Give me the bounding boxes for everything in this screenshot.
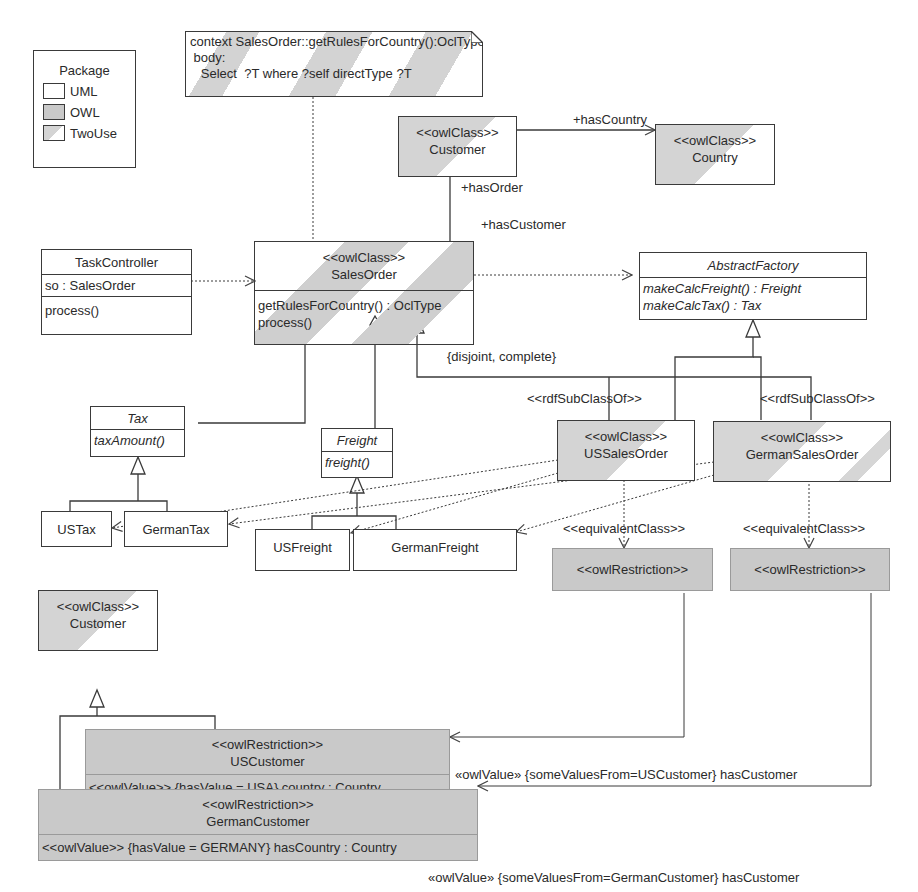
class-name: AbstractFactory <box>640 253 866 277</box>
class-german-freight[interactable]: GermanFreight <box>353 529 517 571</box>
class-sales-order[interactable]: <<owlClass>> SalesOrder getRulesForCount… <box>254 241 474 345</box>
restriction-us[interactable]: <<owlRestriction>> <box>552 548 713 591</box>
legend-label: TwoUse <box>70 126 117 141</box>
stereotype: <<owlClass>> <box>658 132 772 149</box>
class-us-tax[interactable]: USTax <box>41 511 112 547</box>
class-customer-bottom[interactable]: <<owlClass>> Customer <box>38 590 158 651</box>
label-equivalent-german: <<equivalentClass>> <box>743 521 865 536</box>
class-german-customer[interactable]: <<owlRestriction>> GermanCustomer <<owlV… <box>38 789 478 861</box>
attribute: <<owlValue>> {hasValue = GERMANY} hasCou… <box>39 834 477 858</box>
class-name: USFreight <box>256 530 349 559</box>
twouse-swatch-icon <box>43 125 65 141</box>
class-country[interactable]: <<owlClass>> Country <box>655 124 775 185</box>
class-us-freight[interactable]: USFreight <box>255 529 350 571</box>
stereotype: <<owlClass>> <box>716 429 888 446</box>
class-name: Country <box>658 149 772 166</box>
stereotype: <<owlRestriction>> <box>553 549 712 581</box>
label-has-customer: +hasCustomer <box>481 217 566 232</box>
class-german-tax[interactable]: GermanTax <box>124 511 228 547</box>
class-name: GermanCustomer <box>41 813 475 830</box>
restriction-german[interactable]: <<owlRestriction>> <box>730 548 890 591</box>
class-tax[interactable]: Tax taxAmount() <box>90 406 185 457</box>
operation: makeCalcTax() : Tax <box>643 297 863 314</box>
class-name: Freight <box>322 429 392 451</box>
operation: process() <box>42 296 191 321</box>
stereotype: <<owlRestriction>> <box>88 736 447 753</box>
legend-label: OWL <box>70 105 100 120</box>
stereotype: <<owlClass>> <box>41 598 155 615</box>
label-disjoint-complete: {disjoint, complete} <box>447 349 556 364</box>
label-rdf-subclass-us: <<rdfSubClassOf>> <box>527 391 642 406</box>
class-freight[interactable]: Freight freight() <box>321 428 393 478</box>
note-line: context SalesOrder::getRulesForCountry()… <box>190 34 478 50</box>
attribute: so : SalesOrder <box>42 274 191 296</box>
class-name: GermanTax <box>125 512 227 541</box>
label-owlvalue-us: «owlValue» {someValuesFrom=USCustomer} h… <box>455 767 797 782</box>
owl-swatch-icon <box>43 104 65 120</box>
class-name: Customer <box>401 141 514 158</box>
stereotype: <<owlClass>> <box>401 124 514 141</box>
label-has-country: +hasCountry <box>573 112 647 127</box>
class-us-sales-order[interactable]: <<owlClass>> USSalesOrder <box>557 420 695 481</box>
stereotype: <<owlClass>> <box>560 428 692 445</box>
class-name: Customer <box>41 615 155 632</box>
label-owlvalue-german: «owlValue» {someValuesFrom=GermanCustome… <box>428 870 799 885</box>
legend: Package UML OWL TwoUse <box>33 50 136 168</box>
legend-item-uml: UML <box>43 83 135 99</box>
operation: getRulesForCountry() : OclType <box>258 297 470 314</box>
label-has-order: +hasOrder <box>461 180 523 195</box>
uml-swatch-icon <box>43 83 65 99</box>
class-name: USTax <box>42 512 111 541</box>
note-fold-icon <box>471 31 483 43</box>
class-name: USCustomer <box>88 753 447 770</box>
class-german-sales-order[interactable]: <<owlClass>> GermanSalesOrder <box>713 421 891 482</box>
stereotype: <<owlClass>> <box>257 249 471 266</box>
label-rdf-subclass-german: <<rdfSubClassOf>> <box>760 391 875 406</box>
class-task-controller[interactable]: TaskController so : SalesOrder process() <box>41 249 192 335</box>
operation: freight() <box>322 451 392 473</box>
legend-item-owl: OWL <box>43 104 135 120</box>
class-name: GermanSalesOrder <box>716 446 888 463</box>
operation: taxAmount() <box>91 429 184 451</box>
legend-title: Package <box>34 63 135 78</box>
class-name: GermanFreight <box>354 530 516 559</box>
stereotype: <<owlRestriction>> <box>731 549 889 581</box>
class-customer-top[interactable]: <<owlClass>> Customer <box>398 116 517 177</box>
legend-label: UML <box>70 84 97 99</box>
note-line: Select ?T where ?self directType ?T <box>190 66 478 82</box>
legend-item-twouse: TwoUse <box>43 125 135 141</box>
stereotype: <<owlRestriction>> <box>41 796 475 813</box>
class-name: TaskController <box>42 250 191 274</box>
label-equivalent-us: <<equivalentClass>> <box>563 521 685 536</box>
class-name: USSalesOrder <box>560 445 692 462</box>
operation: makeCalcFreight() : Freight <box>643 280 863 297</box>
class-name: SalesOrder <box>257 266 471 283</box>
class-name: Tax <box>91 407 184 429</box>
operation: process() <box>258 314 470 331</box>
ocl-note[interactable]: context SalesOrder::getRulesForCountry()… <box>185 31 483 97</box>
note-line: body: <box>190 50 478 66</box>
class-abstract-factory[interactable]: AbstractFactory makeCalcFreight() : Frei… <box>639 252 867 320</box>
